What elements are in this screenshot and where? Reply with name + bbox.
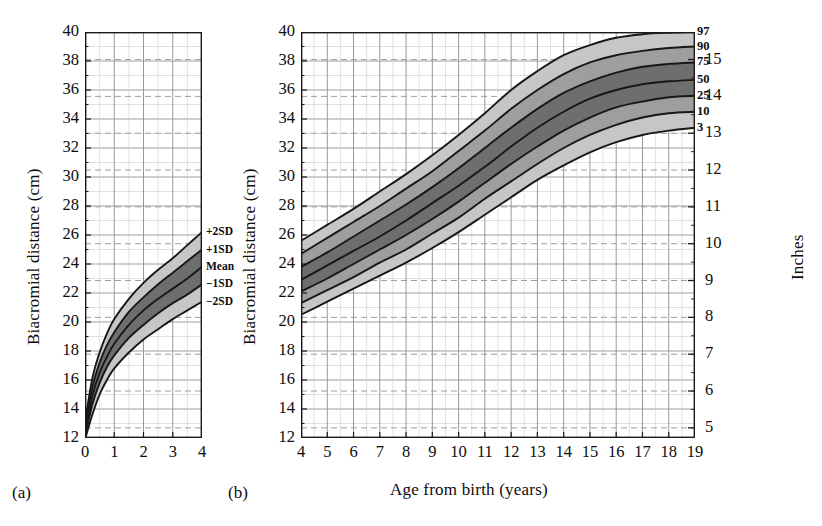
panel-b-y-tick: 26 [259,226,295,243]
panel-b-percentile-label: 50 [697,73,710,86]
panel-a-x-tick: 3 [158,444,188,461]
panel-a-x-tick: 1 [99,444,129,461]
panel-a-y-tick: 26 [43,226,79,243]
panel-a-y-tick: 32 [43,139,79,156]
panel-b-right-tick: 8 [705,308,713,325]
panel-b-right-tick: 7 [705,345,713,362]
panel-b-y-tick: 16 [259,371,295,388]
figure-root: Biacromial distance (cm) (a) 12141618202… [0,0,822,526]
panel-b-percentile-label: 10 [697,105,710,118]
panel-a-y-tick: 18 [43,342,79,359]
panel-a-y-tick: 40 [43,23,79,40]
panel-b-plot [301,32,695,438]
panel-b [301,32,695,438]
panel-b-x-tick: 19 [680,444,710,461]
panel-a-plot [85,32,202,438]
panel-b-y-tick: 40 [259,23,295,40]
panel-b-y-tick: 34 [259,110,295,127]
panel-b-y-axis-title: Biacromial distance (cm) [240,168,260,345]
panel-b-y-tick: 32 [259,139,295,156]
panel-a-y-tick: 20 [43,313,79,330]
panel-b-y-tick: 38 [259,52,295,69]
panel-a-x-tick: 0 [70,444,100,461]
panel-a-x-tick: 2 [129,444,159,461]
panel-b-right-tick: 9 [705,272,713,289]
panel-b-y-tick: 36 [259,81,295,98]
panel-a [85,32,202,438]
panel-a-y-tick: 14 [43,400,79,417]
panel-a-series-label: +2SD [206,226,233,238]
panel-a-y-tick: 22 [43,284,79,301]
panel-b-right-tick: 10 [705,235,722,252]
panel-b-percentile-label: 97 [697,25,710,38]
panel-b-right-tick: 6 [705,382,713,399]
panel-a-y-axis-title: Biacromial distance (cm) [24,168,44,345]
panel-a-y-tick: 36 [43,81,79,98]
panel-b-y-tick: 28 [259,197,295,214]
panel-b-label: (b) [228,483,248,503]
panel-a-series-label: −2SD [206,296,233,308]
panel-b-percentile-label: 75 [697,55,710,68]
panel-b-right-tick: 13 [705,124,722,141]
panel-a-series-label: +1SD [206,244,233,256]
panel-a-y-tick: 30 [43,168,79,185]
panel-b-right-tick: 11 [705,198,721,215]
panel-b-y-tick: 18 [259,342,295,359]
panel-b-right-tick: 12 [705,161,722,178]
panel-a-label: (a) [12,483,31,503]
panel-a-y-tick: 24 [43,255,79,272]
panel-a-x-tick: 4 [187,444,217,461]
panel-b-y-tick: 30 [259,168,295,185]
panel-a-y-tick: 38 [43,52,79,69]
panel-a-y-tick: 28 [43,197,79,214]
panel-a-y-tick: 34 [43,110,79,127]
panel-b-percentile-label: 3 [697,121,703,134]
panel-a-y-tick: 16 [43,371,79,388]
panel-b-y-tick: 20 [259,313,295,330]
panel-b-x-axis-title: Age from birth (years) [390,480,548,500]
panel-a-series-label: −1SD [206,278,233,290]
panel-b-y-tick: 14 [259,400,295,417]
panel-a-series-label: Mean [206,261,234,273]
panel-b-percentile-label: 90 [697,40,710,53]
panel-b-right-axis-title: Inches [788,234,808,280]
panel-b-y-tick: 24 [259,255,295,272]
panel-b-right-tick: 5 [705,419,713,436]
panel-b-y-tick: 22 [259,284,295,301]
panel-b-percentile-label: 25 [697,89,710,102]
